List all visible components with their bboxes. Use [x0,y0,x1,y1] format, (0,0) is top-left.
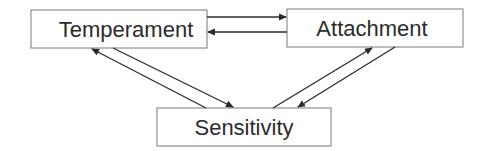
node-attachment: Attachment [287,9,463,47]
node-label: Sensitivity [194,115,293,140]
node-sensitivity: Sensitivity [157,108,331,146]
arrow-sensitivity-to-temperament [92,49,206,108]
arrow-attachment-to-sensitivity [298,47,395,107]
arrow-temperament-to-sensitivity [113,48,233,107]
node-temperament: Temperament [31,10,207,48]
node-label: Attachment [316,16,427,41]
node-label: Temperament [59,17,194,42]
arrow-sensitivity-to-attachment [273,48,372,108]
diagram-canvas: Temperament Attachment Sensitivity [0,0,492,151]
